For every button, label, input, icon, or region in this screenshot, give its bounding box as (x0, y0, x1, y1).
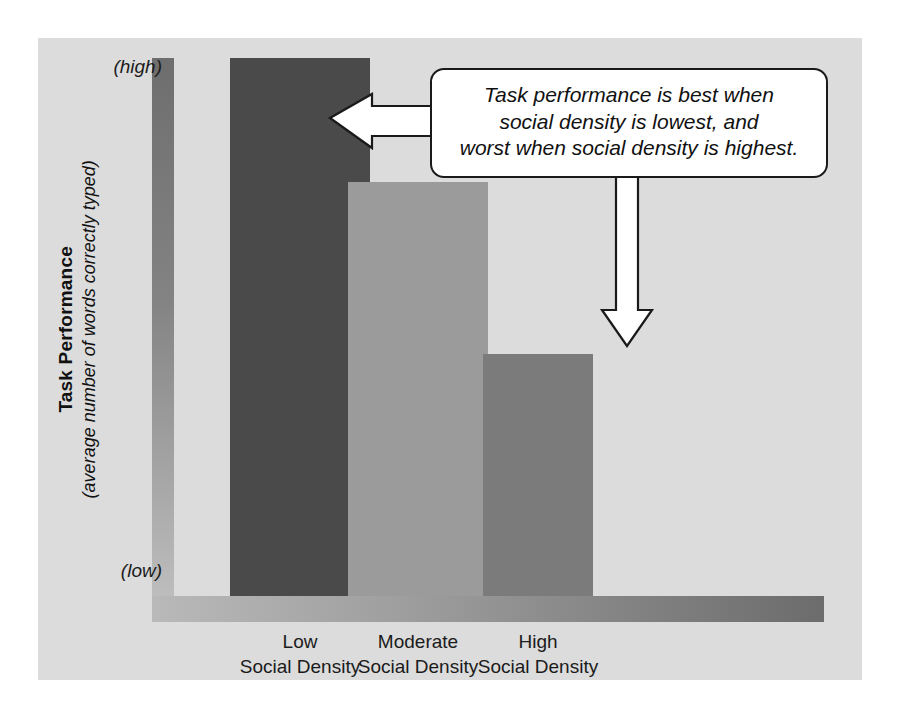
y-axis-low-label: (low) (121, 560, 162, 582)
y-axis-title-sub: (average number of words correctly typed… (78, 94, 101, 564)
category-label-high-line2: Social Density (448, 655, 628, 680)
category-label-high: High Social Density (448, 630, 628, 679)
plot-area: (high) (low) Task Performance (average n… (38, 38, 862, 680)
y-axis-bar (152, 58, 174, 596)
bar-moderate-social-density[interactable] (348, 182, 488, 596)
callout-annotation: Task performance is best when social den… (430, 68, 828, 178)
callout-line-2: social density is lowest, and (448, 109, 810, 136)
category-label-high-line1: High (448, 630, 628, 655)
x-axis-bar (152, 596, 824, 622)
y-axis-title: Task Performance (average number of word… (54, 94, 101, 564)
callout-line-1: Task performance is best when (448, 82, 810, 109)
bar-high-social-density[interactable] (483, 354, 593, 596)
y-axis-title-main: Task Performance (54, 94, 78, 564)
chart-panel: (high) (low) Task Performance (average n… (38, 38, 862, 680)
figure-root: (high) (low) Task Performance (average n… (0, 0, 902, 720)
arrow-down-icon (602, 166, 652, 346)
callout-line-3: worst when social density is highest. (448, 135, 810, 162)
y-axis-high-label: (high) (113, 56, 162, 78)
